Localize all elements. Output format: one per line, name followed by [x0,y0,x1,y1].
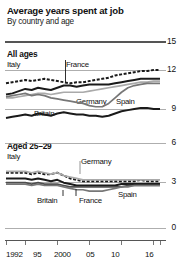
chart-svg [0,0,179,265]
chart-figure: Average years spent at job By country an… [0,0,179,265]
